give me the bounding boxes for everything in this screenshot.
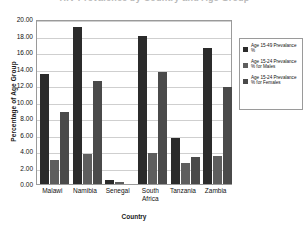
bar <box>171 138 180 184</box>
bar <box>60 112 69 184</box>
legend-item[interactable]: Age 15-24 Prevalance % for Males <box>243 59 299 70</box>
legend-item[interactable]: Age 15-49 Prevalance % <box>243 43 299 54</box>
bar <box>203 48 212 184</box>
bar <box>105 180 114 184</box>
x-axis-tick-label: Namibia <box>69 187 102 195</box>
y-axis-tick-label: 0.00 <box>0 181 33 188</box>
x-axis-tick-label: Tanzania <box>167 187 200 195</box>
y-axis-tick-label: 8.00 <box>0 115 33 122</box>
legend-label: Age 15-24 Prevalance % for Females <box>251 75 299 86</box>
bar-group <box>103 21 134 184</box>
legend-label: Age 15-24 Prevalance % for Males <box>251 59 299 70</box>
bar <box>213 156 222 184</box>
bar <box>40 74 49 184</box>
bar <box>73 27 82 184</box>
bar-group <box>169 21 200 184</box>
x-axis-tick-label: Malawi <box>36 187 69 195</box>
y-axis-tick-label: 4.00 <box>0 148 33 155</box>
legend-swatch-icon <box>243 47 248 52</box>
legend-item[interactable]: Age 15-24 Prevalance % for Females <box>243 75 299 86</box>
y-axis-tick-label: 20.00 <box>0 16 33 23</box>
x-axis-tick-label: SouthAfrica <box>134 187 167 203</box>
bar <box>158 72 167 184</box>
y-axis-tick-label: 12.00 <box>0 82 33 89</box>
y-axis-tick-label: 14.00 <box>0 66 33 73</box>
plot-area <box>36 20 232 185</box>
bar <box>115 182 124 184</box>
bar <box>50 160 59 184</box>
bar <box>191 157 200 184</box>
chart-title: HIV Prevalence by Country and Age Group <box>22 0 287 3</box>
bar <box>148 153 157 184</box>
bar-group <box>38 21 69 184</box>
y-axis-tick-label: 16.00 <box>0 49 33 56</box>
chart-title-cropped: HIV Prevalence by Country and Age Group <box>0 0 307 9</box>
y-axis-tick-label: 10.00 <box>0 99 33 106</box>
bar-group <box>201 21 232 184</box>
y-axis-tick-label: 6.00 <box>0 132 33 139</box>
bar-chart-figure: HIV Prevalence by Country and Age Group … <box>0 0 307 231</box>
bar <box>181 163 190 184</box>
legend-label: Age 15-49 Prevalance % <box>251 43 299 54</box>
x-axis-tick-label: Zambia <box>199 187 232 195</box>
legend-swatch-icon <box>243 79 248 84</box>
bar <box>138 36 147 185</box>
y-axis-tick-label: 18.00 <box>0 33 33 40</box>
y-axis-tick-label: 2.00 <box>0 165 33 172</box>
bar <box>223 87 232 184</box>
bar <box>93 81 102 184</box>
chart-legend: Age 15-49 Prevalance %Age 15-24 Prevalan… <box>239 38 303 110</box>
x-axis-tick-label: Senegal <box>101 187 134 195</box>
bar <box>83 154 92 184</box>
legend-swatch-icon <box>243 63 248 68</box>
bar-group <box>136 21 167 184</box>
x-axis-title: Country <box>36 213 232 220</box>
bar-group <box>71 21 102 184</box>
